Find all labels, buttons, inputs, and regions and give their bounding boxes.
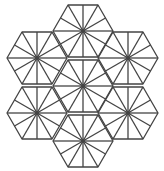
hexagon-center-dot	[81, 84, 85, 88]
hexagon-star-pattern-diagram	[0, 0, 164, 171]
hexagon-center-dot	[81, 29, 85, 33]
hexagon-center-dot	[81, 139, 85, 143]
hexagon-center-dot	[126, 111, 130, 115]
hexagon-center-dot	[126, 56, 130, 60]
hexagon-group	[7, 5, 158, 167]
hexagon-center-dot	[35, 56, 39, 60]
hexagon-center-dot	[35, 111, 39, 115]
